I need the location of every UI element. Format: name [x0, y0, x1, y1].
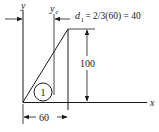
x-axis-label: x: [149, 97, 155, 108]
base-label: 60: [39, 112, 49, 123]
region-number: 1: [41, 87, 46, 98]
yc-label: y: [49, 3, 55, 14]
yc-label-subscript: c: [56, 8, 60, 16]
y-axis-label: y: [20, 0, 26, 11]
centroid-diagram: 100 60 1 y x y c d 1 = 2/3(60) = 40: [0, 0, 159, 132]
height-label: 100: [80, 58, 95, 69]
d1-formula: = 2/3(60) = 40: [83, 11, 141, 22]
